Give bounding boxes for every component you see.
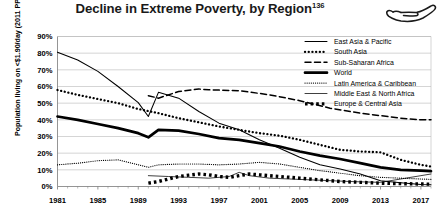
x-tick-label: 1997 <box>211 196 228 205</box>
x-tick-label: 2001 <box>251 196 269 205</box>
series-line <box>58 117 432 172</box>
legend-label: Sub-Saharan Africa <box>334 59 394 66</box>
y-tick-label: 60% <box>37 82 52 91</box>
x-tick-label: 1989 <box>130 196 147 205</box>
legend-label: East Asia & Pacific <box>334 38 392 45</box>
x-tick-label: 2017 <box>412 196 429 205</box>
x-tick-label: 1993 <box>170 196 187 205</box>
chart-page: Decline in Extreme Poverty, by Region136… <box>0 0 440 211</box>
legend-label: Latin America & Caribbean <box>334 80 416 87</box>
y-tick-label: 0% <box>42 182 53 191</box>
x-tick-label: 1981 <box>49 196 67 205</box>
x-tick-label: 2009 <box>332 196 349 205</box>
legend-label: South Asia <box>334 48 367 55</box>
y-tick-label: 90% <box>37 32 52 41</box>
legend-label: World <box>334 69 352 76</box>
poverty-line-chart: 0%10%20%30%40%50%60%70%80%90%19811985198… <box>0 0 440 211</box>
y-tick-label: 80% <box>37 49 52 58</box>
y-tick-label: 10% <box>37 166 52 175</box>
y-tick-label: 40% <box>37 116 52 125</box>
y-tick-label: 70% <box>37 66 52 75</box>
chart-canvas: 0%10%20%30%40%50%60%70%80%90%19811985198… <box>0 0 440 211</box>
legend-label: Europe & Central Asia <box>334 100 402 108</box>
x-tick-label: 2013 <box>372 196 389 205</box>
y-tick-label: 20% <box>37 149 52 158</box>
x-tick-label: 1985 <box>89 196 107 205</box>
y-tick-label: 50% <box>37 99 52 108</box>
legend-label: Middle East & North Africa <box>334 90 415 97</box>
x-tick-label: 2005 <box>291 196 309 205</box>
y-tick-label: 30% <box>37 132 52 141</box>
